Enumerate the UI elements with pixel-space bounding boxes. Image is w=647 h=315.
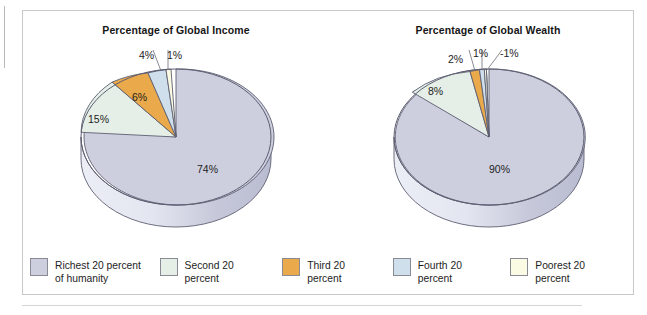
- chart-title-income: Percentage of Global Income: [60, 24, 292, 36]
- pie-chart-wealth: [368, 52, 610, 237]
- pie-label-fourth-wealth: 1%: [473, 47, 488, 59]
- pie-chart-income: [55, 52, 297, 237]
- legend-item-second[interactable]: Second 20 percent: [160, 258, 271, 285]
- pie-label-fourth-income: 4%: [139, 49, 154, 61]
- chart-title-wealth: Percentage of Global Wealth: [372, 24, 604, 36]
- legend-swatch-fourth: [393, 258, 411, 276]
- pie-leader-lines-income: [153, 50, 168, 71]
- figure-canvas: Percentage of Global Income: [0, 0, 647, 315]
- legend-item-richest[interactable]: Richest 20 percent of humanity: [30, 258, 148, 285]
- page-bottom-rule: [22, 305, 582, 306]
- chart-legend: Richest 20 percent of humanity Second 20…: [30, 258, 626, 292]
- legend-label-third: Third 20 percent: [307, 258, 381, 285]
- legend-swatch-richest: [30, 258, 48, 276]
- pie-slices-income: [81, 69, 274, 205]
- pie-label-third-wealth: 2%: [448, 53, 463, 65]
- legend-item-third[interactable]: Third 20 percent: [282, 258, 381, 285]
- pie-slices-wealth: [394, 69, 585, 205]
- legend-label-second: Second 20 percent: [185, 258, 271, 285]
- pie-label-third-income: 6%: [132, 91, 147, 103]
- legend-label-poorest: Poorest 20 percent: [535, 258, 614, 285]
- legend-label-fourth: Fourth 20 percent: [418, 258, 498, 285]
- pie-label-poorest-income: 1%: [167, 49, 182, 61]
- page-edge-rule: [4, 6, 5, 68]
- pie-label-second-income: 15%: [88, 113, 109, 125]
- legend-label-richest: Richest 20 percent of humanity: [55, 258, 141, 285]
- legend-item-fourth[interactable]: Fourth 20 percent: [393, 258, 498, 285]
- legend-swatch-second: [160, 258, 178, 276]
- legend-swatch-third: [282, 258, 300, 276]
- legend-item-poorest[interactable]: Poorest 20 percent: [510, 258, 614, 285]
- legend-swatch-poorest: [510, 258, 528, 276]
- pie-label-second-wealth: 8%: [428, 85, 443, 97]
- pie-label-poorest-wealth: -1%: [500, 47, 519, 59]
- pie-label-richest-income: 74%: [197, 163, 218, 175]
- pie-label-richest-wealth: 90%: [489, 163, 510, 175]
